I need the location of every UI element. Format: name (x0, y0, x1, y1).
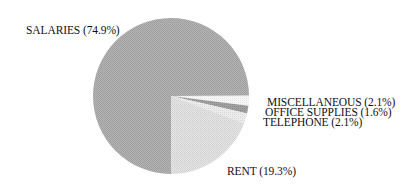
label-salaries: SALARIES (74.9%) (26, 24, 120, 36)
pie-chart: SALARIES (74.9%) MISCELLANEOUS (2.1%) OF… (0, 0, 403, 190)
label-rent: RENT (19.3%) (227, 165, 296, 177)
label-telephone: TELEPHONE (2.1%) (263, 116, 362, 128)
pie-slices (93, 18, 249, 174)
